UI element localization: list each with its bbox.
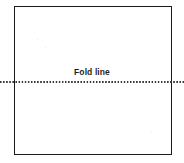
fold-line-label: Fold line (0, 67, 184, 77)
scan-speckle (151, 131, 152, 132)
scan-speckle (37, 39, 38, 40)
fold-line-dotted-rule (0, 81, 184, 83)
scan-speckle (45, 47, 46, 48)
fold-line-diagram: Fold line (0, 0, 184, 163)
